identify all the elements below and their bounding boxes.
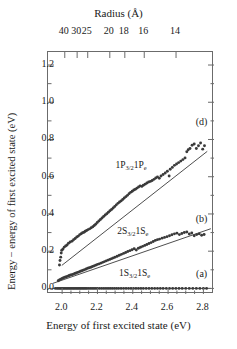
radius-tick-18: 18 [119, 26, 129, 36]
x-tick-2.4: 2.4 [126, 302, 139, 312]
y-tick-0.2: 0.2 [42, 245, 55, 255]
top-axis-title: Radius (Å) [0, 8, 237, 19]
radius-tick-25: 25 [82, 26, 92, 36]
x-tick-2.6: 2.6 [161, 302, 174, 312]
y-tick-0.6: 0.6 [42, 171, 55, 181]
x-tick-2.2: 2.2 [90, 302, 103, 312]
radius-tick-14: 14 [170, 26, 180, 36]
y-tick-0.8: 0.8 [42, 133, 55, 143]
y-tick-1.2: 1.2 [42, 59, 55, 69]
radius-tick-20: 20 [104, 26, 114, 36]
y-axis-title: Energy − energy of first excited state (… [7, 113, 18, 290]
y-tick-0.4: 0.4 [42, 208, 55, 218]
radius-tick-16: 16 [138, 26, 148, 36]
x-tick-2.0: 2.0 [55, 302, 68, 312]
y-tick-0.0: 0.0 [42, 282, 55, 292]
x-tick-2.8: 2.8 [196, 302, 209, 312]
x-axis-title: Energy of first excited state (eV) [0, 320, 237, 331]
radius-tick-30: 30 [71, 26, 81, 36]
figure-container: Radius (Å) 40302520181614 1P3/21Pe2S3/21… [0, 0, 237, 349]
radius-tick-40: 40 [59, 26, 69, 36]
plot-frame: 1P3/21Pe2S3/21Se1S3/21Se(d)(b)(a) [47, 51, 213, 293]
axis-ticks [48, 52, 214, 294]
y-tick-1.0: 1.0 [42, 96, 55, 106]
